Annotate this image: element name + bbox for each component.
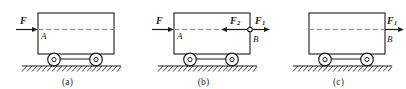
panel-caption-c: (c) <box>271 77 406 87</box>
ground-hatching-b <box>158 66 257 72</box>
panel-c: F1 B (c) <box>271 0 406 89</box>
force-arrow-F1-c <box>385 27 404 32</box>
wheel-rear-hub-c <box>365 57 369 61</box>
panel-b: F F2 F1 A B (b) <box>136 0 271 89</box>
force-label-F2-b: F2 <box>230 16 240 27</box>
force-label-F1-c-symbol: F <box>387 15 394 26</box>
figure-three-cart-free-body-diagrams: F A (a) <box>0 0 406 89</box>
ground-hatching-a <box>22 66 121 72</box>
point-label-B-b: B <box>253 35 259 44</box>
point-label-B-c: B <box>387 35 393 44</box>
wheel-rear-hub-a <box>94 57 98 61</box>
wheel-front-hub-a <box>52 57 56 61</box>
panel-caption-a: (a) <box>0 77 135 87</box>
force-label-F1-c: F1 <box>387 16 397 27</box>
cart-body-a <box>38 13 114 54</box>
ground-hatching-c <box>293 66 392 72</box>
point-label-A-b: A <box>177 32 183 41</box>
wheel-front-hub-b <box>188 57 192 61</box>
wheel-rear-hub-b <box>230 57 234 61</box>
panel-a-drawing <box>0 0 135 89</box>
force-arrow-F-b <box>152 27 174 32</box>
force-arrow-F1-b <box>253 27 270 32</box>
panel-caption-b: (b) <box>136 77 271 87</box>
force-label-F2-b-subscript: 2 <box>237 19 240 26</box>
force-label-F1-b-subscript: 1 <box>262 19 265 26</box>
force-arrow-F2-b <box>221 27 249 32</box>
cart-body-c <box>309 13 385 54</box>
force-label-F2-b-symbol: F <box>230 15 237 26</box>
point-label-A-a: A <box>41 32 47 41</box>
hinge-dot-B-b <box>248 27 253 32</box>
force-arrow-F-a <box>16 27 38 32</box>
force-label-F1-b: F1 <box>255 16 265 27</box>
force-label-F-a: F <box>20 16 27 26</box>
panel-a: F A (a) <box>0 0 135 89</box>
force-label-F-b: F <box>156 16 163 26</box>
panel-b-drawing <box>136 0 271 89</box>
wheel-front-hub-c <box>323 57 327 61</box>
panel-c-drawing <box>271 0 406 89</box>
force-label-F1-c-subscript: 1 <box>394 19 397 26</box>
force-label-F1-b-symbol: F <box>255 15 262 26</box>
